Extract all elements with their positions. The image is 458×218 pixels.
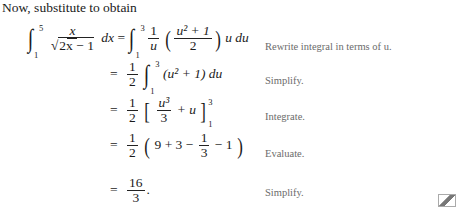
end-of-example-icon bbox=[438, 194, 456, 207]
step-4-note: Evaluate. bbox=[265, 148, 304, 159]
intro-text: Now, substitute to obtain bbox=[2, 0, 137, 16]
integral-sign: ∫ bbox=[28, 26, 33, 52]
integral-sign: ∫ bbox=[129, 26, 134, 52]
step-1-note: Rewrite integral in terms of u. bbox=[265, 41, 392, 52]
step-1-equation: ∫ 5 1 x √2x − 1 dx = ∫ 3 1 1u (u² + 12) … bbox=[27, 24, 249, 53]
step-2-equation: = 12 ∫ 3 1 (u² + 1) du bbox=[110, 60, 222, 89]
step-3-equation: = 12 [ u³3 + u ] 3 1 bbox=[110, 96, 207, 125]
step-5-note: Simplify. bbox=[265, 187, 304, 198]
step-3-note: Integrate. bbox=[265, 111, 305, 122]
lower-limit: 1 bbox=[34, 50, 38, 60]
step-5-equation: = 163. bbox=[110, 176, 150, 205]
step-2-note: Simplify. bbox=[265, 75, 304, 86]
step-4-equation: = 12 ( 9 + 3 − 13 − 1 ) bbox=[110, 131, 244, 160]
upper-limit: 5 bbox=[39, 23, 43, 33]
integrand-fraction: x √2x − 1 bbox=[49, 24, 96, 53]
differential: dx bbox=[101, 30, 114, 45]
